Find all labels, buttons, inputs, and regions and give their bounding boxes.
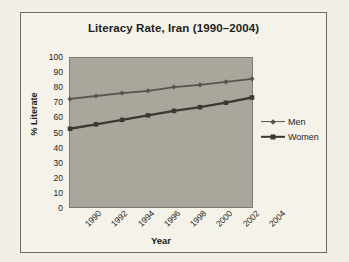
data-point-men (249, 76, 254, 81)
data-point-men (197, 82, 202, 87)
data-point-women (94, 122, 99, 127)
data-point-men (171, 84, 176, 89)
legend-item-men[interactable]: Men (261, 115, 325, 128)
y-axis-tick: 80 (54, 83, 63, 92)
data-point-men (93, 93, 98, 98)
y-axis-tick: 90 (54, 68, 63, 77)
x-axis-tick: 2000 (215, 209, 235, 229)
y-axis-tick: 30 (54, 158, 63, 167)
legend-label: Men (285, 117, 306, 127)
chart-legend: MenWomen (261, 115, 325, 145)
data-point-women (68, 127, 73, 132)
x-axis-title: Year (69, 235, 253, 246)
y-axis-tick: 60 (54, 113, 63, 122)
x-axis-tick: 1996 (162, 209, 182, 229)
chart-frame: Literacy Rate, Iran (1990–2004) % Litera… (20, 12, 327, 253)
data-point-women (250, 95, 255, 100)
data-point-men (145, 88, 150, 93)
y-axis-tick: 0 (58, 204, 63, 213)
y-axis-tick: 100 (49, 53, 63, 62)
plot-series-svg (70, 58, 252, 207)
data-point-men (67, 96, 72, 101)
data-point-men (223, 79, 228, 84)
x-axis-tick: 1990 (84, 209, 104, 229)
data-point-women (198, 105, 203, 110)
plot-area (69, 57, 253, 208)
y-axis-tick: 10 (54, 189, 63, 198)
data-point-women (146, 113, 151, 118)
x-axis-tick: 1994 (136, 209, 156, 229)
legend-label: Women (285, 132, 319, 142)
data-point-men (119, 90, 124, 95)
legend-item-women[interactable]: Women (261, 130, 325, 143)
y-axis-tick-labels: 1009080706050403020100 (33, 57, 66, 208)
x-axis-tick: 1998 (189, 209, 209, 229)
y-axis-tick: 70 (54, 98, 63, 107)
x-axis-tick: 1992 (110, 209, 130, 229)
data-point-women (172, 109, 177, 114)
data-point-women (224, 100, 229, 105)
legend-swatch-diamond-icon (261, 117, 285, 127)
x-axis-tick: 2002 (241, 209, 261, 229)
y-axis-tick: 40 (54, 143, 63, 152)
x-axis-tick: 2004 (268, 209, 288, 229)
chart-title: Literacy Rate, Iran (1990–2004) (21, 22, 326, 34)
data-point-women (120, 118, 125, 123)
legend-swatch-square-icon (261, 132, 285, 142)
y-axis-tick: 50 (54, 128, 63, 137)
y-axis-tick: 20 (54, 174, 63, 183)
